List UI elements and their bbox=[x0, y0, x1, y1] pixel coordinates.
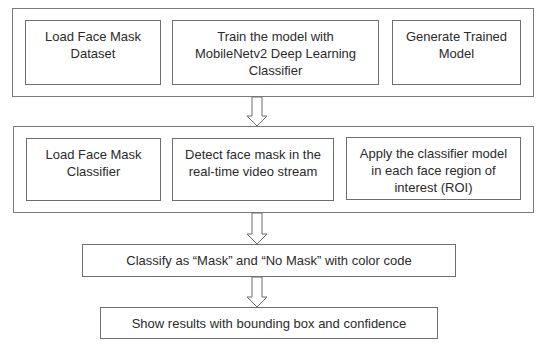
step-apply-classifier-label: Apply the classifier model in each face … bbox=[354, 145, 514, 196]
down-arrow-icon bbox=[246, 277, 268, 309]
step-train-model: Train the model with MobileNetv2 Deep Le… bbox=[172, 20, 379, 85]
step-load-classifier-label: Load Face Mask Classifier bbox=[39, 146, 149, 180]
step-load-classifier: Load Face Mask Classifier bbox=[26, 138, 161, 201]
step-load-dataset: Load Face Mask Dataset bbox=[25, 20, 161, 85]
step-classify: Classify as “Mask” and “No Mask” with co… bbox=[82, 244, 456, 277]
down-arrow-icon bbox=[246, 213, 268, 245]
step-apply-classifier: Apply the classifier model in each face … bbox=[346, 137, 521, 200]
down-arrow-icon bbox=[246, 97, 268, 127]
step-generate-model-label: Generate Trained Model bbox=[402, 28, 512, 62]
step-show-results-label: Show results with bounding box and confi… bbox=[132, 315, 407, 332]
step-detect-mask-label: Detect face mask in the real-time video … bbox=[178, 146, 328, 180]
step-show-results: Show results with bounding box and confi… bbox=[100, 307, 438, 339]
step-generate-model: Generate Trained Model bbox=[392, 20, 521, 85]
step-detect-mask: Detect face mask in the real-time video … bbox=[172, 138, 334, 201]
step-train-model-label: Train the model with MobileNetv2 Deep Le… bbox=[186, 28, 366, 79]
step-load-dataset-label: Load Face Mask Dataset bbox=[38, 28, 148, 62]
step-classify-label: Classify as “Mask” and “No Mask” with co… bbox=[126, 252, 411, 269]
